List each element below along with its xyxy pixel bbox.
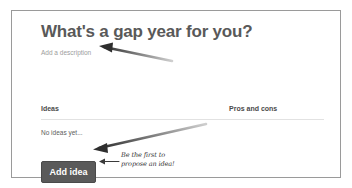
page-title: What's a gap year for you?	[41, 22, 252, 42]
handwritten-note-line-2: propose an idea!	[121, 160, 191, 169]
column-header-ideas: Ideas	[41, 105, 59, 112]
table-header-divider	[41, 119, 324, 120]
add-idea-button[interactable]: Add idea	[41, 161, 96, 183]
column-header-pros-and-cons: Pros and cons	[229, 105, 277, 112]
screenshot-root: What's a gap year for you? Add a descrip…	[0, 0, 352, 188]
description-placeholder[interactable]: Add a description	[41, 49, 91, 56]
handwritten-note: Be the first to propose an idea!	[121, 151, 191, 168]
table-header-row: Ideas Pros and cons	[41, 105, 315, 119]
handwritten-note-line-1: Be the first to	[121, 151, 191, 160]
empty-state-text: No ideas yet...	[41, 129, 83, 136]
